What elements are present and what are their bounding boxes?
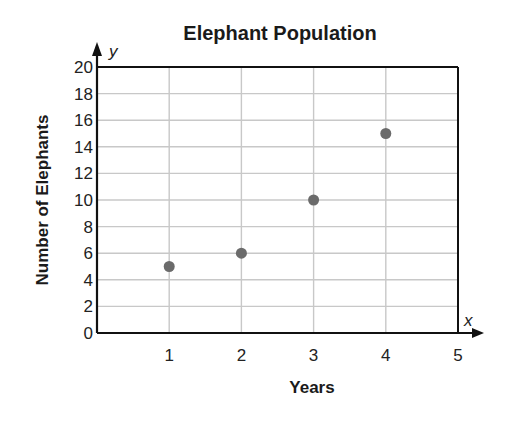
y-tick-label: 12 — [74, 164, 93, 183]
data-point — [308, 195, 319, 206]
y-tick-label: 6 — [84, 244, 93, 263]
y-tick-label: 2 — [84, 297, 93, 316]
y-axis-arrow-icon — [92, 42, 102, 56]
y-tick-label: 18 — [74, 85, 93, 104]
y-axis-variable: y — [108, 42, 119, 61]
y-tick-label: 8 — [84, 218, 93, 237]
data-point — [236, 248, 247, 259]
scatter-chart: yx0246810121416182012345YearsNumber of E… — [0, 0, 514, 421]
y-tick-label: 16 — [74, 111, 93, 130]
x-axis-title: Years — [289, 378, 334, 397]
y-tick-label: 0 — [84, 324, 93, 343]
x-tick-label: 5 — [453, 346, 462, 365]
x-tick-label: 1 — [164, 346, 173, 365]
y-tick-label: 14 — [74, 138, 93, 157]
y-tick-label: 4 — [84, 271, 93, 290]
x-tick-label: 4 — [381, 346, 390, 365]
data-point — [380, 128, 391, 139]
y-axis-title: Number of Elephants — [33, 115, 52, 286]
data-point — [164, 261, 175, 272]
x-axis-arrow-icon — [472, 328, 484, 338]
x-tick-label: 2 — [237, 346, 246, 365]
y-tick-label: 20 — [74, 58, 93, 77]
x-tick-label: 3 — [309, 346, 318, 365]
x-axis-variable: x — [463, 311, 473, 330]
y-tick-label: 10 — [74, 191, 93, 210]
